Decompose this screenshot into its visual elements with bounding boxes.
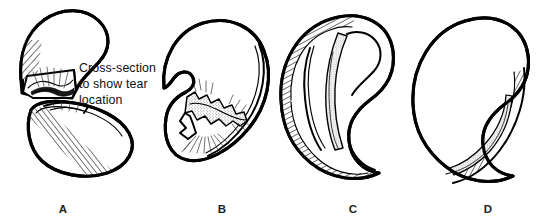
panel-letter-b: B xyxy=(218,203,226,215)
meniscus-tear-figure: Cross-section to show tear location xyxy=(0,0,545,223)
panel-letter-d: D xyxy=(484,203,492,215)
figure-canvas: Cross-section to show tear location xyxy=(0,0,545,223)
panel-letter-c: C xyxy=(349,203,357,215)
annotation-line-3: location xyxy=(79,93,123,107)
annotation-line-1: Cross-section xyxy=(79,61,156,75)
panel-letter-a: A xyxy=(59,203,67,215)
annotation-line-2: to show tear xyxy=(79,77,148,91)
